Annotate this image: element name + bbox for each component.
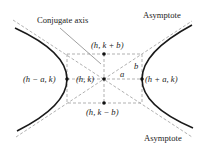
- conjugate-axis-label: Conjugate axis: [37, 15, 89, 25]
- center-point: [102, 77, 106, 81]
- left-vertex-point: [65, 77, 69, 81]
- hyperbola-diagram: Conjugate axis Asymptote Asymptote (h, k…: [0, 0, 204, 152]
- asymptote-top-label: Asymptote: [143, 10, 181, 20]
- b-label: b: [134, 61, 139, 71]
- top-point: [102, 52, 106, 56]
- top-point-label: (h, k + b): [91, 40, 124, 50]
- right-vertex-point: [140, 77, 144, 81]
- right-vertex-label: (h + a, k): [145, 74, 178, 84]
- asymptote-bottom-label: Asymptote: [144, 133, 182, 143]
- center-label: (h, k): [76, 74, 94, 84]
- left-vertex-label: (h − a, k): [23, 74, 56, 84]
- bottom-point-label: (h, k − b): [86, 107, 119, 117]
- bottom-point: [102, 101, 106, 105]
- a-label: a: [120, 69, 124, 79]
